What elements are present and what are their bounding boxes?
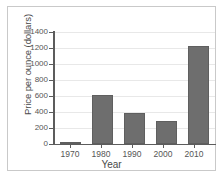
y-axis-tick-labels: 1400 1200 1000 800 600 400 200 0 [20, 7, 48, 180]
bar-1990 [124, 113, 145, 144]
chart-figure: Price per ounce (dollars) 1400 1200 1000… [0, 0, 224, 180]
x-tick-label-2010: 2010 [177, 149, 211, 159]
figure-frame: Price per ounce (dollars) 1400 1200 1000… [7, 6, 216, 171]
y-tick-label: 600 [22, 92, 48, 100]
y-tick-label: 0 [22, 140, 48, 148]
bar-1980 [92, 95, 113, 144]
x-tick-mark [163, 144, 164, 148]
x-tick-label-2000: 2000 [146, 149, 180, 159]
gridline [54, 32, 215, 33]
y-tick-label: 800 [22, 76, 48, 84]
plot-area [54, 32, 215, 144]
bar-2010 [188, 46, 209, 144]
y-tick-label: 200 [22, 124, 48, 132]
x-tick-label-1990: 1990 [115, 149, 149, 159]
y-axis-line [53, 31, 55, 145]
y-tick-label: 400 [22, 108, 48, 116]
x-tick-mark [101, 144, 102, 148]
x-tick-mark [132, 144, 133, 148]
x-tick-mark [70, 144, 71, 148]
x-axis-line [53, 144, 216, 146]
x-tick-mark [194, 144, 195, 148]
y-tick-label: 1200 [22, 44, 48, 52]
x-tick-label-1980: 1980 [84, 149, 118, 159]
y-tick-label: 1400 [22, 28, 48, 36]
bar-2000 [156, 121, 177, 144]
y-tick-label: 1000 [22, 60, 48, 68]
x-tick-label-1970: 1970 [53, 149, 87, 159]
x-axis-label: Year [8, 159, 215, 170]
